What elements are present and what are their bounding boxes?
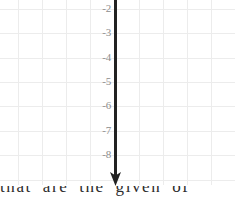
y-axis-line: [0, 0, 235, 201]
bottom-caption-strip: that are the given of: [0, 186, 235, 201]
coordinate-plane-figure: -2-3-4-5-6-7-8 that are the given of: [0, 0, 235, 201]
bottom-caption-text: that are the given of: [0, 186, 235, 201]
